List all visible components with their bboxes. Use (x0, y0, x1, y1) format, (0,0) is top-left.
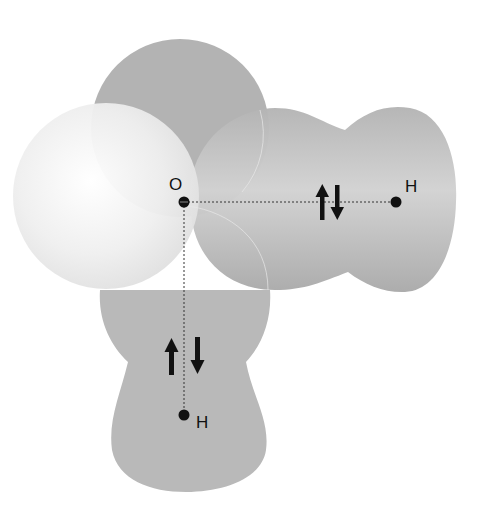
hydrogen-right-label: H (405, 177, 417, 196)
left-lone-pair-lobe (13, 103, 199, 289)
hydrogen-bottom-nucleus (179, 410, 190, 421)
water-orbital-diagram: O H H (0, 0, 489, 521)
hydrogen-right-nucleus (391, 197, 402, 208)
oxygen-label: O (169, 175, 182, 194)
bottom-bonding-lobe (100, 290, 270, 492)
hydrogen-bottom-label: H (196, 413, 208, 432)
